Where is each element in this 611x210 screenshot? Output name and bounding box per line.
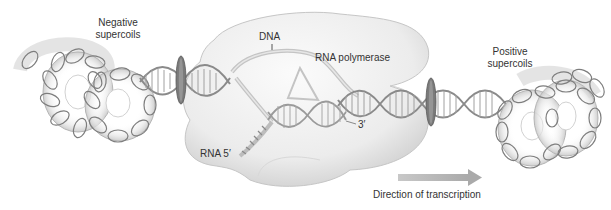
negative-supercoils (19, 44, 156, 142)
negative-supercoils-label-line2: supercoils (88, 29, 148, 41)
rna-five-prime-label: RNA 5′ (200, 148, 231, 160)
three-prime-label: 3′ (358, 119, 365, 131)
rna-polymerase-label: RNA polymerase (315, 52, 390, 64)
positive-supercoils-label-line2: supercoils (480, 58, 540, 70)
negative-supercoils-label-line1: Negative (88, 17, 148, 29)
positive-supercoils-label: Positive supercoils (480, 46, 540, 70)
topoisomerase-left (176, 56, 186, 104)
topoisomerase-right (426, 78, 436, 126)
direction-arrow (398, 169, 482, 186)
dna-label: DNA (259, 31, 280, 43)
positive-supercoils-label-line1: Positive (480, 46, 540, 58)
direction-of-transcription-label: Direction of transcription (373, 189, 481, 201)
negative-supercoils-label: Negative supercoils (88, 17, 148, 41)
positive-supercoils (495, 67, 607, 168)
